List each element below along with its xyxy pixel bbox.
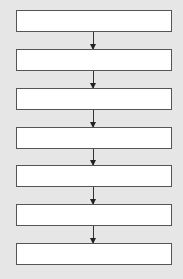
flow-step-5 <box>16 165 172 187</box>
flow-step-1 <box>16 10 172 32</box>
arrow-down-icon <box>93 187 94 204</box>
arrow-down-icon <box>93 32 94 49</box>
flow-step-3 <box>16 88 172 110</box>
flow-step-6 <box>16 204 172 226</box>
flow-step-4 <box>16 127 172 149</box>
flow-step-7 <box>16 243 172 265</box>
arrow-down-icon <box>93 149 94 165</box>
arrow-down-icon <box>93 110 94 127</box>
arrow-down-icon <box>93 226 94 243</box>
arrow-down-icon <box>93 71 94 88</box>
flow-step-2 <box>16 49 172 71</box>
